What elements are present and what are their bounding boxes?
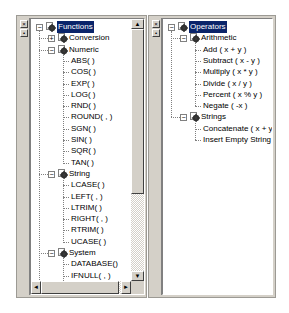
functions-vertical-scrollbar[interactable]: ▲ ▼ bbox=[131, 19, 144, 281]
tree-item[interactable]: SIN( ) bbox=[31, 134, 131, 146]
tree-group-label: Arithmetic bbox=[201, 32, 237, 44]
tree-item[interactable]: SQR( ) bbox=[31, 145, 131, 157]
tree-item-label: ABS( ) bbox=[71, 55, 95, 67]
tree-item-label: DATABASE() bbox=[71, 258, 118, 270]
tree-item-label: EXP( ) bbox=[71, 78, 95, 90]
tree-connector bbox=[195, 121, 196, 139]
tree-item[interactable]: LEFT( , ) bbox=[31, 191, 131, 203]
gear-icon bbox=[58, 33, 68, 43]
collapse-toggle[interactable]: − bbox=[180, 114, 187, 121]
tree-item-label: LCASE( ) bbox=[71, 179, 105, 191]
tree-item-label: SQR( ) bbox=[71, 145, 96, 157]
collapse-toggle[interactable]: − bbox=[168, 24, 175, 31]
tree-connector bbox=[195, 140, 201, 141]
pin-panel-button[interactable]: • bbox=[20, 29, 28, 37]
close-panel-button[interactable]: × bbox=[152, 20, 160, 28]
tree-item-label: ROUND( , ) bbox=[71, 111, 112, 123]
tree-item[interactable]: COS( ) bbox=[31, 66, 131, 78]
tree-root[interactable]: − Operators bbox=[163, 21, 273, 33]
tree-connector bbox=[171, 117, 180, 118]
tree-item[interactable]: TAN( ) bbox=[31, 157, 131, 169]
tree-item-label: Divide ( x / y ) bbox=[203, 78, 252, 90]
tree-connector bbox=[39, 174, 48, 175]
functions-horizontal-scrollbar[interactable]: ◄ ► bbox=[31, 281, 131, 294]
expand-toggle[interactable]: + bbox=[48, 35, 55, 42]
tree-item[interactable]: Add ( x + y ) bbox=[163, 44, 273, 56]
tree-group-arithmetic[interactable]: − Arithmetic bbox=[163, 32, 273, 44]
collapse-toggle[interactable]: − bbox=[180, 35, 187, 42]
tree-item[interactable]: DATABASE() bbox=[31, 258, 131, 270]
tree-group-strings[interactable]: − Strings bbox=[163, 111, 273, 123]
functions-panel-gutter: × • bbox=[19, 18, 30, 295]
tree-item-label: Concatenate ( x + y ) bbox=[203, 123, 273, 135]
tree-item[interactable]: Concatenate ( x + y ) bbox=[163, 123, 273, 135]
tree-item-label: Add ( x + y ) bbox=[203, 44, 246, 56]
tree-item[interactable]: RTRIM( ) bbox=[31, 224, 131, 236]
tree-item[interactable]: ABS( ) bbox=[31, 55, 131, 67]
tree-root-label: Operators bbox=[189, 21, 227, 33]
tree-connector bbox=[63, 163, 69, 164]
operators-tree-content: − Operators− ArithmeticAdd ( x + y )Subt… bbox=[163, 19, 273, 294]
tree-item[interactable]: UCASE( ) bbox=[31, 236, 131, 248]
tree-group-string[interactable]: − String bbox=[31, 168, 131, 180]
horizontal-scroll-thumb[interactable] bbox=[41, 281, 119, 294]
tree-item[interactable]: Negate ( -x ) bbox=[163, 100, 273, 112]
tree-item[interactable]: EXP( ) bbox=[31, 78, 131, 90]
tree-item[interactable]: IFNULL( , ) bbox=[31, 270, 131, 282]
tree-connector bbox=[39, 50, 48, 51]
tree-root-label: Functions bbox=[57, 21, 94, 33]
tree-group-label: Strings bbox=[201, 111, 226, 123]
functions-panel: × • − Functions+ Conversion− NumericABS(… bbox=[16, 15, 147, 298]
operators-panel: × • − Operators− ArithmeticAdd ( x + y )… bbox=[148, 15, 276, 298]
scroll-left-button[interactable]: ◄ bbox=[31, 281, 41, 294]
close-panel-button[interactable]: × bbox=[20, 20, 28, 28]
tree-item[interactable]: RND( ) bbox=[31, 100, 131, 112]
tree-item-label: LEFT( , ) bbox=[71, 191, 103, 203]
functions-tree-content: − Functions+ Conversion− NumericABS( )CO… bbox=[31, 19, 131, 281]
collapse-toggle[interactable]: − bbox=[48, 250, 55, 257]
functions-tree[interactable]: − Functions+ Conversion− NumericABS( )CO… bbox=[30, 18, 145, 295]
tree-connector bbox=[63, 178, 64, 241]
scroll-up-button[interactable]: ▲ bbox=[131, 19, 144, 29]
tree-item[interactable]: RIGHT( , ) bbox=[31, 213, 131, 225]
tree-connector bbox=[63, 54, 64, 163]
tree-item[interactable]: Divide ( x / y ) bbox=[163, 78, 273, 90]
collapse-toggle[interactable]: − bbox=[48, 47, 55, 54]
tree-group-numeric[interactable]: − Numeric bbox=[31, 44, 131, 56]
collapse-toggle[interactable]: − bbox=[36, 24, 43, 31]
vertical-scroll-thumb[interactable] bbox=[131, 29, 144, 194]
tree-item[interactable]: Insert Empty String ( "" ) bbox=[163, 134, 273, 146]
tree-group-label: System bbox=[69, 247, 96, 259]
tree-item[interactable]: LTRIM( ) bbox=[31, 202, 131, 214]
tree-group-label: Numeric bbox=[69, 44, 99, 56]
tree-item[interactable]: ROUND( , ) bbox=[31, 111, 131, 123]
tree-group-label: String bbox=[69, 168, 90, 180]
scroll-down-button[interactable]: ▼ bbox=[131, 271, 144, 281]
tree-group-label: Conversion bbox=[69, 32, 109, 44]
collapse-toggle[interactable]: − bbox=[48, 171, 55, 178]
gear-icon bbox=[178, 22, 188, 32]
tree-item-label: COS( ) bbox=[71, 66, 96, 78]
tree-item[interactable]: LCASE( ) bbox=[31, 179, 131, 191]
tree-item-label: LTRIM( ) bbox=[71, 202, 102, 214]
tree-root[interactable]: − Functions bbox=[31, 21, 131, 33]
tree-item[interactable]: LOG( ) bbox=[31, 89, 131, 101]
tree-item[interactable]: Subtract ( x - y ) bbox=[163, 55, 273, 67]
tree-item-label: IFNULL( , ) bbox=[71, 270, 111, 282]
scroll-right-button[interactable]: ► bbox=[121, 281, 131, 294]
tree-item-label: SGN( ) bbox=[71, 123, 96, 135]
tree-connector bbox=[171, 38, 180, 39]
tree-group-conversion[interactable]: + Conversion bbox=[31, 32, 131, 44]
pin-panel-button[interactable]: • bbox=[152, 29, 160, 37]
tree-item[interactable]: Multiply ( x * y ) bbox=[163, 66, 273, 78]
tree-connector bbox=[195, 42, 196, 105]
tree-item[interactable]: Percent ( x % y ) bbox=[163, 89, 273, 101]
gear-icon bbox=[46, 22, 56, 32]
tree-item-label: Negate ( -x ) bbox=[203, 100, 247, 112]
tree-connector bbox=[195, 106, 201, 107]
tree-item-label: Percent ( x % y ) bbox=[203, 89, 262, 101]
operators-tree[interactable]: − Operators− ArithmeticAdd ( x + y )Subt… bbox=[162, 18, 273, 295]
tree-group-system[interactable]: − System bbox=[31, 247, 131, 259]
scrollbar-corner bbox=[131, 281, 144, 294]
tree-item[interactable]: SGN( ) bbox=[31, 123, 131, 135]
